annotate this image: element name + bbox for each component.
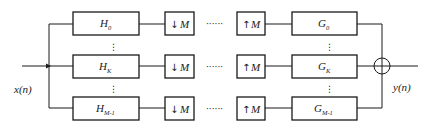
up-arrow-icon: ↑: [242, 62, 250, 73]
up-arrow-icon: ↑: [242, 104, 250, 115]
svg-text:M: M: [250, 61, 261, 73]
ellipsis: ······: [206, 19, 223, 29]
svg-text:G: G: [318, 17, 326, 29]
svg-text:K: K: [106, 67, 112, 74]
svg-text:M: M: [179, 18, 190, 30]
svg-text:M-1: M-1: [321, 109, 333, 116]
down-arrow-icon: ↓: [170, 62, 178, 73]
vertical-ellipsis: ⋮: [109, 42, 118, 52]
input-signal: [22, 24, 73, 108]
output-label: y(n): [392, 81, 411, 94]
down-arrow-icon: ↓: [170, 19, 178, 30]
ellipsis: ······: [206, 62, 223, 72]
vertical-ellipsis: ⋮: [109, 84, 118, 94]
svg-text:M: M: [250, 18, 261, 30]
svg-text:G: G: [314, 102, 322, 114]
filter-bank-diagram: x(n) y(n) H 0 ↓ M ······ ↑ M G 0 ⋮ ⋮ ⋮ ⋮: [0, 0, 429, 134]
svg-text:M: M: [179, 103, 190, 115]
summing-node: [374, 58, 390, 74]
down-arrow-icon: ↓: [170, 104, 178, 115]
svg-text:M-1: M-1: [103, 109, 115, 116]
svg-text:G: G: [318, 60, 326, 72]
input-label: x(n): [13, 83, 32, 96]
ellipsis: ······: [206, 104, 223, 114]
up-arrow-icon: ↑: [242, 19, 250, 30]
vertical-ellipsis: ⋮: [325, 42, 334, 52]
vertical-ellipsis: ⋮: [325, 84, 334, 94]
svg-text:M: M: [250, 103, 261, 115]
svg-text:M: M: [179, 61, 190, 73]
row-k: H K ↓ M ······ ↑ M G K: [73, 55, 357, 78]
row-m-minus-1: H M-1 ↓ M ······ ↑ M G M-1: [73, 97, 357, 120]
row-0: H 0 ↓ M ······ ↑ M G 0: [73, 12, 357, 35]
svg-text:K: K: [325, 67, 331, 74]
